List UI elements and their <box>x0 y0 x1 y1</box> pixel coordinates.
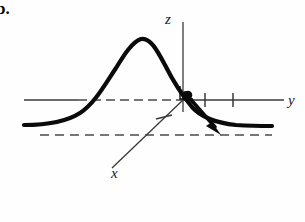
z-axis-label: z <box>165 12 171 27</box>
bell-curve-path <box>24 39 272 126</box>
x-axis-line <box>112 100 183 168</box>
figure-container: b. z y x <box>0 0 305 222</box>
coordinate-figure-svg <box>0 0 305 222</box>
gradient-arrow-shaft <box>185 93 215 127</box>
y-axis-label: y <box>288 93 295 108</box>
x-axis-label: x <box>111 166 118 181</box>
